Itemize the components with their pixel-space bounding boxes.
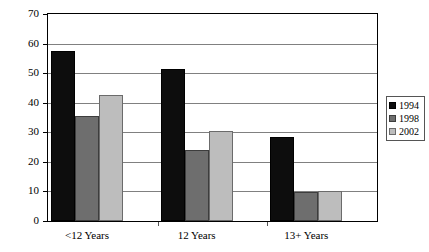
legend-item-1998: 1998	[389, 112, 422, 125]
bar-1998-13-years	[294, 192, 318, 221]
bar-1994-12-years	[161, 69, 185, 221]
legend-item-2002: 2002	[389, 125, 422, 138]
legend-label: 2002	[399, 127, 419, 137]
x-tick-label: 13+ Years	[256, 229, 356, 241]
x-tick-label: 12 Years	[147, 229, 247, 241]
bar-1998-12-years	[185, 150, 209, 221]
bars-layer	[48, 14, 377, 221]
y-tick-label: 20	[13, 156, 39, 167]
bar-2002-12-years	[209, 131, 233, 221]
bar-1994-13-years	[270, 137, 294, 221]
x-tick-label: <12 Years	[37, 229, 137, 241]
bar-2002-13-years	[318, 191, 342, 221]
bar-group	[161, 14, 233, 221]
legend-label: 1998	[399, 114, 419, 124]
y-tick-label: 70	[13, 8, 39, 19]
bar-group	[51, 14, 123, 221]
legend-label: 1994	[399, 101, 419, 111]
y-tick-label: 50	[13, 67, 39, 78]
y-tick-label: 10	[13, 185, 39, 196]
y-tick-label: 0	[13, 215, 39, 226]
y-tick-label: 30	[13, 126, 39, 137]
legend-swatch-icon	[389, 102, 396, 109]
y-tick-label: 40	[13, 97, 39, 108]
legend-item-1994: 1994	[389, 99, 422, 112]
bar-1994--12-years	[51, 51, 75, 221]
legend-swatch-icon	[389, 115, 396, 122]
bar-1998--12-years	[75, 116, 99, 221]
bar-group	[270, 14, 342, 221]
y-tick-label: 60	[13, 38, 39, 49]
x-tick-mark	[267, 222, 268, 226]
bar-chart: 010203040506070 <12 Years12 Years13+ Yea…	[0, 0, 429, 252]
x-tick-mark	[158, 222, 159, 226]
legend-swatch-icon	[389, 128, 396, 135]
legend: 199419982002	[386, 96, 425, 141]
bar-2002--12-years	[99, 95, 123, 221]
